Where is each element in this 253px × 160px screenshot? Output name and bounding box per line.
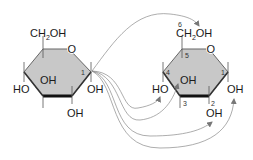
left-ring-ch2oh: CH2OH xyxy=(30,27,66,41)
right-ring-c5-label: 5 xyxy=(185,52,189,59)
left-ring-ho-left: HO xyxy=(13,83,30,95)
right-ring-ch2oh: CH2OH xyxy=(176,27,212,41)
left-ring-oh-bottom: OH xyxy=(67,107,84,119)
right-ring-c1-label: 1 xyxy=(221,69,225,76)
glycosidic-linkage-diagram: O CH2OH 1 HO OH OH OH O CH2OH 6 5 4 3 2 … xyxy=(0,0,253,160)
right-ring-oh-right: OH xyxy=(227,83,244,95)
arrow-to-c3 xyxy=(92,71,178,120)
right-ring-c3-label: 3 xyxy=(183,100,187,107)
right-glucose-ring: O CH2OH 6 5 4 3 2 1 HO OH OH OH xyxy=(152,21,244,119)
left-ring-oh-right: OH xyxy=(87,83,104,95)
left-glucose-ring: O CH2OH 1 HO OH OH OH xyxy=(13,27,104,119)
right-ring-oh-bottom: OH xyxy=(206,107,223,119)
left-ring-oxygen: O xyxy=(68,43,77,55)
right-ring-oh-inner: OH xyxy=(180,74,197,86)
right-ring-ho-left: HO xyxy=(152,83,169,95)
right-ring-c2-label: 2 xyxy=(211,100,215,107)
right-ring-oxygen: O xyxy=(207,43,216,55)
left-ring-c1-label: 1 xyxy=(81,69,85,76)
right-ring-hexagon xyxy=(163,49,228,96)
left-ring-oh-inner: OH xyxy=(40,74,57,86)
right-ring-c4-label: 4 xyxy=(166,69,170,76)
right-ring-c6-label: 6 xyxy=(178,21,182,28)
